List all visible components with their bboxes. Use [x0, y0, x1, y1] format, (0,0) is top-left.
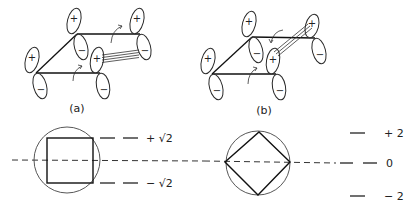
bond-b-left-diagonal — [212, 37, 252, 74]
sign-minus: − — [78, 45, 86, 56]
sign-minus: − — [276, 85, 284, 96]
overlap-ribbon-b — [274, 24, 312, 56]
energy-levels-b: + 2 0 − 2 — [340, 127, 404, 203]
bond-b-top — [252, 37, 315, 38]
sign-minus: − — [141, 45, 149, 56]
sign-plus: + — [93, 53, 101, 64]
rotation-arrow-b-bottom — [248, 67, 257, 84]
sign-plus: + — [204, 53, 212, 64]
energy-label-zero: 0 — [386, 157, 393, 170]
p-orbital-b-top-right: + − — [303, 13, 329, 66]
sign-plus: + — [245, 16, 253, 27]
sign-minus: − — [213, 85, 221, 96]
sign-plus: + — [269, 54, 277, 65]
sign-plus: + — [28, 52, 36, 63]
energy-label-minus-2: − 2 — [384, 190, 404, 203]
zero-energy-dashed-line-b — [204, 161, 336, 163]
frost-circle — [226, 131, 290, 195]
energy-label-minus-root2: − √2 — [146, 177, 173, 190]
overlap-ribbon-a — [102, 50, 139, 63]
sign-minus: − — [253, 48, 261, 59]
sign-minus: − — [37, 84, 45, 95]
rotation-arrow-b-top — [269, 30, 283, 43]
frost-circle-b — [225, 131, 290, 195]
sign-plus: + — [133, 13, 141, 24]
panel-b-orbital-array: + − + − + − + − — [198, 10, 328, 117]
zero-energy-dashed-line-a — [12, 160, 204, 161]
panel-a-label: (a) — [69, 102, 84, 115]
sign-minus: − — [100, 84, 108, 95]
panel-b-label: (b) — [256, 104, 272, 117]
energy-label-plus-root2: + √2 — [146, 132, 173, 145]
orbital-diagram: + − + − + − + − — [0, 0, 411, 208]
sign-minus: − — [316, 49, 324, 60]
sign-plus: + — [70, 13, 78, 24]
bond-a-left-diagonal — [36, 34, 77, 73]
energy-label-plus-2: + 2 — [384, 127, 404, 140]
panel-a-orbital-array: + − + − + − + − — [22, 7, 153, 115]
